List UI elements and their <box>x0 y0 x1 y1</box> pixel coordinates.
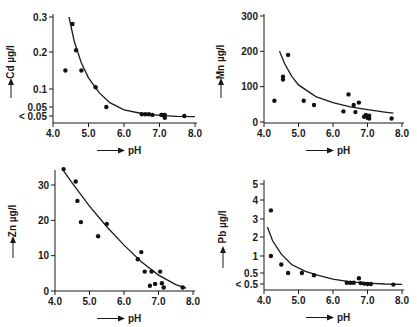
cd-x-arrowhead-icon <box>118 148 125 154</box>
mn-data-point <box>272 99 276 103</box>
zn-data-point <box>139 250 143 254</box>
mn-x-tick-label: 6.0 <box>326 128 340 139</box>
zn-fit-curve <box>64 171 187 288</box>
mn-y-tick-label: 100 <box>241 81 258 92</box>
cd-x-tick-label: 4.0 <box>46 128 60 139</box>
mn-y-tick-label: 300 <box>241 11 258 22</box>
cd-y-tick-label: 0.2 <box>33 47 47 58</box>
cd-x-tick-label: 8.0 <box>188 128 202 139</box>
pb-y-arrowhead-icon <box>220 246 226 253</box>
zn-y-tick-label: 10 <box>38 250 50 261</box>
cd-x-axis-label: pH <box>128 145 141 156</box>
pb-y-tick-label: 4 <box>252 195 258 206</box>
zn-y-tick-label: 0 <box>43 286 49 297</box>
mn-x-arrowhead-icon <box>327 148 334 154</box>
cd-y-axis-label: Cd µg/l <box>5 45 16 79</box>
pb-data-point <box>286 271 290 275</box>
cd-x-tick-label: 7.0 <box>153 128 167 139</box>
pb-data-point <box>300 271 304 275</box>
zn-data-point <box>148 284 152 288</box>
zn-chart: 4.05.06.07.08.03020100Zn µg/lpH <box>7 167 200 324</box>
zn-data-point <box>181 285 185 289</box>
pb-x-tick-label: 5.0 <box>292 295 306 306</box>
mn-data-point <box>346 92 350 96</box>
mn-data-point <box>367 116 371 120</box>
zn-y-axis-label: Zn µg/l <box>7 205 18 238</box>
mn-data-point <box>389 116 393 120</box>
pb-y-tick-label: 1 <box>252 251 258 262</box>
pb-x-tick-label: 6.0 <box>326 295 340 306</box>
cd-y-tick-label: < 0.05 <box>19 111 48 122</box>
mn-y-axis-label: Mn µg/l <box>215 44 226 79</box>
pb-data-point <box>312 273 316 277</box>
zn-data-point <box>153 282 157 286</box>
pb-y-tick-label: 5 <box>252 179 258 190</box>
mn-fit-curve <box>280 51 394 113</box>
zn-data-point <box>79 220 83 224</box>
pb-x-tick-label: 4.0 <box>257 295 271 306</box>
zn-x-tick-label: 4.0 <box>48 296 62 307</box>
mn-data-point <box>312 103 316 107</box>
zn-data-point <box>96 234 100 238</box>
pb-y-tick-label: 2 <box>252 232 258 243</box>
zn-x-arrowhead-icon <box>118 316 125 322</box>
pb-x-tick-label: 7.0 <box>361 295 375 306</box>
mn-data-point <box>286 53 290 57</box>
zn-y-tick-label: 30 <box>38 180 50 191</box>
mn-data-point <box>357 100 361 104</box>
chart-figure: 4.05.06.07.08.00.30.20.10.05< 0.05Cd µg/… <box>0 0 417 327</box>
mn-chart: 4.05.06.07.08.03002001000Mn µg/lpH <box>215 11 409 157</box>
cd-fit-curve <box>69 17 195 117</box>
zn-data-point <box>143 269 147 273</box>
cd-data-point <box>93 85 97 89</box>
zn-y-tick-label: 20 <box>38 215 50 226</box>
pb-x-tick-label: 8.0 <box>395 295 409 306</box>
mn-x-tick-label: 5.0 <box>292 128 306 139</box>
zn-x-tick-label: 6.0 <box>117 296 131 307</box>
mn-x-tick-label: 8.0 <box>395 128 409 139</box>
cd-x-tick-label: 6.0 <box>117 128 131 139</box>
cd-data-point <box>104 105 108 109</box>
cd-data-point <box>182 114 186 118</box>
cd-data-point <box>163 113 167 117</box>
pb-data-point <box>369 282 373 286</box>
mn-data-point <box>352 103 356 107</box>
cd-data-point <box>63 68 67 72</box>
zn-data-point <box>162 285 166 289</box>
mn-x-axis-label: pH <box>337 145 350 156</box>
mn-y-tick-label: 200 <box>241 46 258 57</box>
zn-x-tick-label: 8.0 <box>186 296 200 307</box>
zn-data-point <box>74 179 78 183</box>
zn-data-point <box>160 281 164 285</box>
pb-x-axis-label: pH <box>337 312 350 323</box>
pb-chart: 4.05.06.07.08.0543210.5< 0.5Pb µg/lpH <box>217 179 409 324</box>
cd-y-tick-label: 0.1 <box>33 84 47 95</box>
pb-data-point <box>269 254 273 258</box>
cd-data-point <box>70 22 74 26</box>
zn-data-point <box>149 269 153 273</box>
pb-y-tick-label: 3 <box>252 214 258 225</box>
mn-data-point <box>341 109 345 113</box>
pb-data-point <box>391 282 395 286</box>
zn-x-tick-label: 7.0 <box>152 296 166 307</box>
cd-x-tick-label: 5.0 <box>82 128 96 139</box>
mn-x-tick-label: 7.0 <box>361 128 375 139</box>
cd-data-point <box>79 68 83 72</box>
pb-data-point <box>357 276 361 280</box>
mn-data-point <box>353 110 357 114</box>
mn-y-tick-label: 0 <box>252 117 258 128</box>
zn-data-point <box>75 199 79 203</box>
mn-data-point <box>281 75 285 79</box>
pb-data-point <box>352 281 356 285</box>
mn-data-point <box>302 99 306 103</box>
pb-x-arrowhead-icon <box>327 315 334 321</box>
zn-x-axis-label: pH <box>128 313 141 324</box>
zn-x-tick-label: 5.0 <box>83 296 97 307</box>
zn-data-point <box>158 269 162 273</box>
cd-data-point <box>74 48 78 52</box>
pb-y-tick-label: < 0.5 <box>235 279 258 290</box>
pb-data-point <box>279 262 283 266</box>
mn-x-tick-label: 4.0 <box>257 128 271 139</box>
zn-data-point <box>105 222 109 226</box>
zn-data-point <box>136 257 140 261</box>
